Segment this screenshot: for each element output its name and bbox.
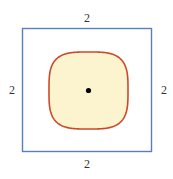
dimension-label-right: 2 xyxy=(157,84,171,96)
dimension-label-bottom: 2 xyxy=(80,158,94,170)
dimension-label-top: 2 xyxy=(80,12,94,24)
dimension-label-left: 2 xyxy=(5,84,19,96)
center-dot-marker xyxy=(86,88,91,93)
figure-canvas xyxy=(0,0,173,179)
geometry-figure: 2 2 2 2 xyxy=(0,0,173,179)
